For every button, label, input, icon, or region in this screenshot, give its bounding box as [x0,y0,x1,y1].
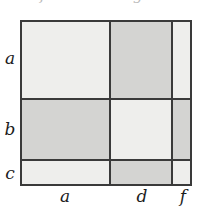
figure-root: f g a b c [0,0,213,208]
grid-row-a [22,22,190,99]
col-label-group: a d f [20,188,192,208]
grid-cell-b-a [22,99,110,160]
grid-row-c [22,160,190,184]
grid-cell-b-f [172,99,190,160]
col-label-d: d [110,188,173,205]
grid-cell-a-f [172,22,190,99]
grid-cell-a-a [22,22,110,99]
grid-cell-c-d [110,160,172,184]
top-annotation-left: f [40,0,46,3]
grid-cell-b-d [110,99,172,160]
row-label-b: b [0,121,20,138]
row-label-a: a [0,50,20,67]
col-label-f: f [174,188,192,205]
col-label-a: a [20,188,110,205]
grid-container [20,20,192,186]
grid-cell-a-d [110,22,172,99]
grid-cell-c-f [172,160,190,184]
grid-table [22,22,190,184]
row-label-c: c [0,165,20,182]
top-annotation-right: g [133,0,143,3]
grid-body [22,22,190,184]
row-label-group: a b c [0,20,20,186]
grid-row-b [22,99,190,160]
top-annotation-strip: f g [0,0,213,12]
grid-cell-c-a [22,160,110,184]
